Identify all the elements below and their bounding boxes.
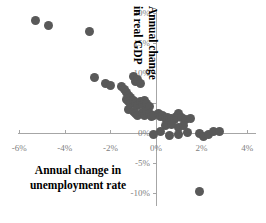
data-point: [215, 127, 224, 136]
data-point: [183, 128, 192, 137]
data-point: [85, 27, 94, 36]
data-point: [165, 131, 174, 140]
x-tick-label: 4%: [230, 143, 264, 153]
data-point: [90, 73, 99, 82]
x-tick-mark: [110, 130, 111, 134]
x-tick-mark: [65, 130, 66, 134]
x-tick-mark: [247, 130, 248, 134]
x-tick-label: -4%: [48, 143, 82, 153]
x-tick-label: -2%: [93, 143, 127, 153]
y-axis-title-line-2: in real GDP: [130, 6, 145, 102]
scatter-chart: -6%-4%-2%0%2%4% 20%15%10%5%0%-5%-10% Ann…: [0, 0, 266, 223]
x-axis-title-line-2: unemployment rate: [30, 179, 126, 191]
x-tick-mark: [19, 130, 20, 134]
data-point: [174, 130, 183, 139]
y-axis-title: Annual change in real GDP: [130, 6, 160, 102]
x-tick-label: -6%: [2, 143, 36, 153]
data-point: [44, 21, 53, 30]
y-tick-label: 0%: [120, 128, 150, 138]
x-tick-label: 0%: [139, 143, 173, 153]
x-axis-title-line-1: Annual change in: [35, 164, 121, 176]
data-point: [31, 16, 40, 25]
data-point: [195, 187, 204, 196]
y-axis-title-line-1: Annual change: [145, 6, 160, 102]
y-tick-mark: [153, 193, 157, 194]
data-point: [106, 81, 115, 90]
x-axis-title: Annual change in unemployment rate: [14, 163, 142, 193]
x-tick-label: 2%: [185, 143, 219, 153]
y-tick-mark: [153, 163, 157, 164]
